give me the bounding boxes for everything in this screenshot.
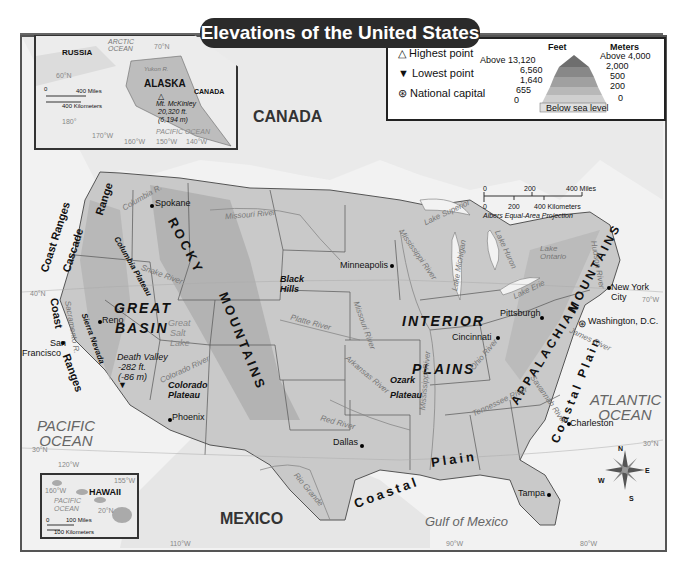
scale-km-0: 0 (483, 203, 487, 210)
death-valley-label: Death Valley (117, 352, 168, 362)
mckinley-meters: (6,194 m) (158, 116, 188, 123)
reno-label: Reno (102, 315, 124, 325)
pacific-hi-label: PACIFIC OCEAN (54, 497, 84, 513)
compass-w: W (598, 477, 605, 484)
spokane-dot (150, 204, 154, 208)
feet-level-3: 1,640 (520, 75, 543, 85)
great-salt-lake-3: Lake (170, 338, 190, 348)
colorado-plateau-1: Colorado (168, 380, 208, 390)
ak-scale-zero: 0 (44, 86, 47, 92)
mckinley-feet: 20,320 ft. (158, 108, 187, 115)
alaska-label: ALASKA (144, 78, 186, 89)
black-hills-1: Black (280, 274, 304, 284)
alaska-inset: RUSSIA ARCTIC OCEAN 70°N 60°N Yukon R. A… (34, 34, 238, 150)
lon-180-label: 180° (62, 118, 76, 125)
scale-miles-400: 400 Miles (566, 185, 596, 192)
meter-level-3: 500 (610, 71, 625, 81)
canada-label: CANADA (253, 108, 322, 126)
tampa-dot (547, 493, 551, 497)
feet-header: Feet (548, 42, 567, 52)
cincinnati-dot (496, 336, 500, 340)
lon-140-label: 140°W (186, 138, 207, 145)
pittsburgh-label: Pittsburgh (500, 308, 541, 318)
lat-30-east-label: 30°N (643, 440, 659, 447)
hi-scale-miles: 100 Miles (66, 517, 92, 523)
compass-n: N (618, 445, 623, 452)
lon-160-hi-label: 160°W (45, 487, 66, 494)
gulf-of-mexico-label: Gulf of Mexico (425, 514, 508, 529)
compass-s: S (629, 495, 634, 502)
lat-40-label: 40°N (30, 290, 46, 297)
lowest-point-icon: ▼ (398, 67, 409, 79)
projection-label: Albers Equal-Area Projection (483, 212, 573, 219)
lon-120-label: 120°W (58, 461, 79, 468)
pacific-inset-label: PACIFIC OCEAN (156, 128, 210, 135)
great-label: GREAT (114, 300, 172, 316)
lat-70-label: 70°N (154, 43, 170, 50)
spokane-label: Spokane (155, 198, 191, 208)
compass-rose-icon (605, 450, 645, 490)
washington-label: Washington, D.C. (588, 316, 658, 326)
tampa-label: Tampa (518, 488, 545, 498)
below-sea-level-label: Below sea level (546, 103, 609, 113)
dallas-label: Dallas (333, 437, 358, 447)
new-york-label-1: New York (611, 282, 649, 292)
dallas-dot (360, 444, 364, 448)
feet-level-1: Above 13,120 (480, 55, 536, 65)
great-salt-lake-1: Great (168, 318, 191, 328)
lon-160-label: 160°W (124, 138, 145, 145)
ak-scale-miles: 400 Miles (76, 88, 102, 94)
lat-30-west-label: 30°N (32, 446, 48, 453)
lon-170-label: 170°W (92, 132, 113, 139)
lowest-point-marker-icon: ▼ (118, 380, 127, 390)
charleston-label: Charleston (570, 418, 614, 428)
colorado-plateau-2: Plateau (168, 390, 200, 400)
meter-level-4: 200 (610, 81, 625, 91)
highest-point-icon: △ (398, 47, 406, 59)
yukon-river-label: Yukon R. (144, 66, 168, 72)
mexico-label: MEXICO (220, 510, 283, 528)
san-francisco-label-1: San (50, 338, 66, 348)
lon-110-label: 110°W (170, 540, 191, 547)
legend-national-capital: ⊛ National capital (398, 87, 485, 100)
ozark-2: Plateau (390, 390, 422, 400)
feet-level-4: 655 (516, 85, 531, 95)
meter-level-5: 0 (618, 93, 623, 103)
new-york-label-2: City (611, 292, 627, 302)
hi-scale-km: 100 Kilometers (54, 529, 94, 535)
lat-20-label: 20°N (98, 507, 114, 514)
pacific-ocean-label: PACIFIC OCEAN (36, 418, 96, 448)
lon-155-label: 155°W (114, 477, 135, 484)
phoenix-label: Phoenix (172, 412, 205, 422)
feet-level-5: 0 (514, 95, 519, 105)
great-salt-lake-2: Salt (170, 328, 186, 338)
cincinnati-label: Cincinnati (452, 332, 492, 342)
black-hills-2: Hills (280, 284, 299, 294)
lon-90-label: 90°W (446, 540, 463, 547)
arctic-ocean-label: ARCTIC OCEAN (108, 38, 148, 52)
lake-ontario-label: Lake Ontario (540, 245, 570, 261)
legend-highest-point: △ Highest point (398, 47, 473, 60)
compass-e: E (645, 467, 650, 474)
map-title: Elevations of the United States (200, 18, 480, 48)
lon-150-label: 150°W (156, 138, 177, 145)
washington-capital-icon: ⊛ (578, 318, 586, 329)
national-capital-icon: ⊛ (398, 87, 407, 99)
death-valley-feet: -282 ft. (118, 362, 146, 372)
san-francisco-label-2: Francisco (22, 348, 61, 358)
meter-level-2: 2,000 (606, 61, 629, 71)
scale-miles-200: 200 (524, 185, 536, 192)
legend-lowest-point: ▼ Lowest point (398, 67, 474, 79)
lon-70-label: 70°W (642, 296, 659, 303)
hi-scale-zero: 0 (46, 517, 49, 523)
hawaii-label: HAWAII (89, 487, 121, 497)
feet-level-2: 6,560 (520, 65, 543, 75)
ozark-1: Ozark (390, 375, 415, 385)
lat-60-label: 60°N (56, 72, 72, 79)
pittsburgh-dot (540, 316, 544, 320)
canada-inset-label: CANADA (194, 88, 224, 95)
russia-label: RUSSIA (62, 48, 92, 57)
mckinley-label: Mt. McKinley (156, 100, 196, 107)
lon-80-label: 80°W (580, 540, 597, 547)
elevation-legend: △ Highest point ▼ Lowest point ⊛ Nationa… (386, 37, 666, 121)
